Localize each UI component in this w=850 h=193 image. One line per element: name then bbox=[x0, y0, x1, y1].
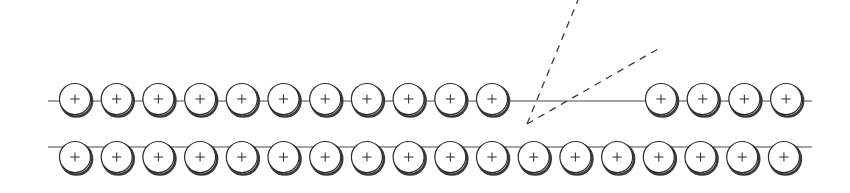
bead bbox=[393, 84, 426, 117]
bead bbox=[101, 84, 134, 117]
bead bbox=[643, 142, 676, 175]
bead bbox=[226, 142, 258, 175]
bead bbox=[60, 84, 93, 117]
bead bbox=[101, 142, 134, 175]
bead bbox=[727, 142, 760, 175]
bead bbox=[60, 142, 93, 175]
rays-layer bbox=[527, 0, 658, 124]
figure-root bbox=[0, 0, 850, 193]
bead bbox=[310, 142, 343, 175]
beads-layer bbox=[60, 84, 804, 175]
bead bbox=[687, 84, 720, 117]
bead bbox=[143, 84, 176, 117]
bead bbox=[435, 84, 468, 117]
bead bbox=[351, 84, 384, 117]
bead bbox=[771, 84, 804, 117]
bead bbox=[560, 142, 593, 175]
bead bbox=[768, 142, 801, 175]
bead bbox=[602, 142, 635, 175]
steep-dashed-ray bbox=[527, 0, 578, 124]
bead bbox=[435, 142, 468, 175]
bead bbox=[268, 142, 301, 175]
bead bbox=[477, 84, 510, 117]
bead bbox=[646, 84, 679, 117]
shallow-dashed-ray bbox=[527, 49, 658, 124]
bead bbox=[393, 142, 426, 175]
bead bbox=[685, 142, 718, 175]
bead bbox=[729, 84, 762, 117]
bead bbox=[185, 84, 218, 117]
bead-chain-diagram bbox=[0, 0, 850, 193]
bead bbox=[143, 142, 176, 175]
bead bbox=[351, 142, 384, 175]
bead bbox=[226, 84, 258, 117]
bead bbox=[477, 142, 510, 175]
bead bbox=[518, 142, 551, 175]
bead bbox=[185, 142, 218, 175]
bead bbox=[310, 84, 343, 117]
bead bbox=[268, 84, 301, 117]
